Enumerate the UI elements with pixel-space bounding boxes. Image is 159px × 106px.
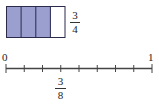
numerator: 3 <box>70 10 80 21</box>
shaded-region <box>7 7 51 38</box>
fraction-label-three-quarters: 3 4 <box>70 10 80 35</box>
number-line <box>6 64 152 73</box>
number-line-end-label: 1 <box>148 52 154 63</box>
denominator: 8 <box>55 90 66 101</box>
number-line-start-label: 0 <box>2 52 8 63</box>
fraction-bar-model <box>7 7 66 38</box>
fraction-label-three-eighths: 3 8 <box>55 76 66 101</box>
denominator: 4 <box>70 24 80 35</box>
numerator: 3 <box>55 76 66 87</box>
